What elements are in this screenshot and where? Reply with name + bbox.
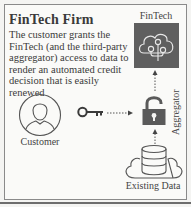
fintech-node [134,23,179,68]
arrow-aggregator-to-fintech [151,68,159,92]
aggregator-label: Aggregator [170,89,181,135]
fintech-label: FinTech [134,10,178,21]
database-cloud-icon [121,143,187,181]
person-icon [18,93,62,137]
existing-data-label: Existing Data [118,180,188,191]
diagram-title: FinTech Firm [9,12,94,28]
key-icon [77,105,105,119]
diagram-description: The customer grants the FinTech (and the… [9,29,133,99]
bottom-rule [0,202,191,204]
customer-label: Customer [15,136,65,147]
lock-icon [141,94,167,127]
arrow-key-to-aggregator [106,108,134,118]
tree-cloud-icon [134,23,179,68]
